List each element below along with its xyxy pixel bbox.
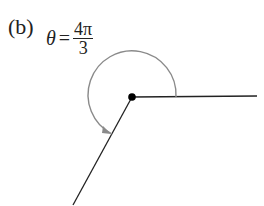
angle-diagram: (b) θ = 4π 3 [0,0,264,206]
vertex-dot [128,93,136,101]
angle-graphic [0,0,264,206]
rotation-arc [88,51,176,134]
arrowhead-icon [102,126,111,134]
initial-ray [132,96,257,97]
terminal-ray [73,97,132,205]
